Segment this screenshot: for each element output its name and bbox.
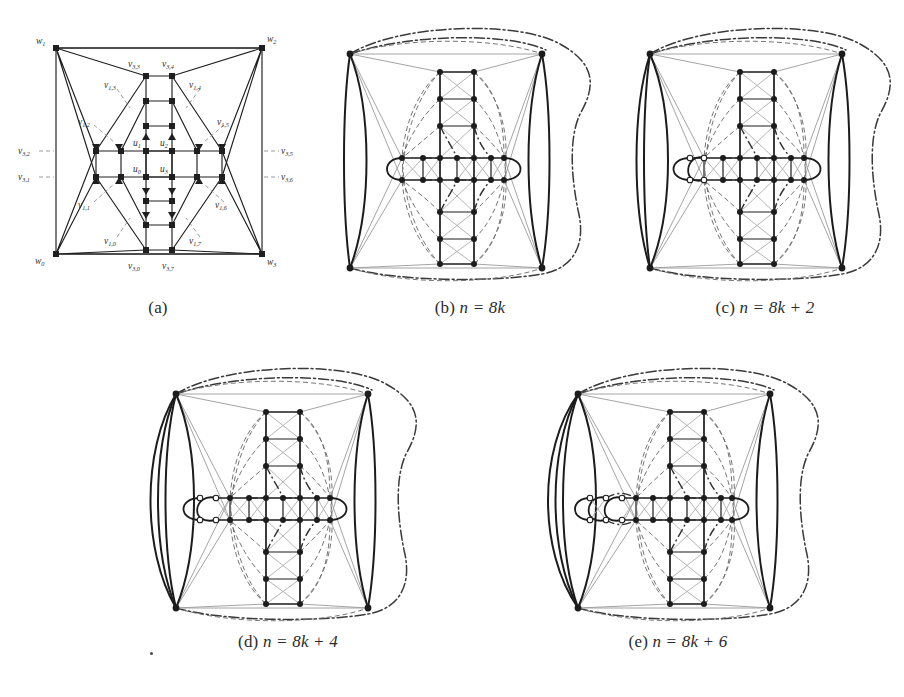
label-w2: w2: [267, 34, 276, 45]
label-v34: v3,4: [162, 59, 174, 70]
caption-c-prefix: (c): [716, 298, 735, 317]
caption-e-formula: n = 8k + 6: [652, 632, 727, 651]
panel-a: w1 w2 w0 w3 v3,3 v3,4 v3,0 v3,7 v3,2 v3,…: [34, 32, 284, 287]
label-u0: u0: [133, 164, 142, 175]
label-v11: v1,1: [78, 200, 90, 211]
caption-b: (b) n = 8k: [390, 298, 550, 318]
caption-d-prefix: (d): [238, 632, 258, 651]
label-v15: v1,5: [217, 117, 229, 128]
label-w3: w3: [267, 257, 276, 268]
caption-e: (e) n = 8k + 6: [578, 632, 778, 652]
label-v35: v3,5: [281, 146, 293, 157]
label-v32: v3,2: [18, 146, 30, 157]
label-v16: v1,6: [215, 200, 228, 211]
figure-root: w1 w2 w0 w3 v3,3 v3,4 v3,0 v3,7 v3,2 v3,…: [0, 0, 904, 697]
label-u3: u3: [160, 164, 168, 175]
label-v36: v3,6: [281, 172, 294, 183]
panel-e: [530, 372, 830, 627]
caption-c-formula: n = 8k + 2: [739, 298, 814, 317]
label-w1: w1: [36, 36, 45, 47]
panel-a-graph: w1 w2 w0 w3 v3,3 v3,4 v3,0 v3,7 v3,2 v3,…: [34, 32, 284, 287]
panel-b-graph: [328, 30, 608, 290]
label-w0: w0: [35, 256, 45, 267]
caption-c: (c) n = 8k + 2: [670, 298, 860, 318]
label-u2: u2: [160, 138, 168, 149]
label-v14: v1,4: [189, 80, 201, 91]
panel-c-graph: [620, 30, 900, 290]
panel-d-graph: [138, 372, 428, 627]
label-v17: v1,7: [189, 236, 202, 247]
caption-b-formula: n = 8k: [460, 298, 506, 317]
label-v13: v1,3: [104, 80, 116, 91]
stray-ink-dot: [150, 652, 153, 655]
panel-c: [620, 30, 900, 290]
panel-b: [328, 30, 608, 290]
label-v30: v3,0: [128, 261, 141, 272]
panel-e-hollow-nodes: [587, 495, 625, 523]
caption-d-formula: n = 8k + 4: [263, 632, 338, 651]
caption-e-prefix: (e): [629, 632, 648, 651]
label-v37: v3,7: [162, 261, 175, 272]
label-u1: u1: [133, 138, 141, 149]
panel-e-graph: [530, 372, 830, 627]
panel-d: [138, 372, 428, 627]
label-v31: v3,1: [18, 172, 30, 183]
caption-d: (d) n = 8k + 4: [188, 632, 388, 652]
panel-d-hollow-nodes: [197, 495, 219, 523]
label-v10: v1,0: [104, 236, 117, 247]
caption-a: (a): [113, 298, 203, 318]
caption-b-prefix: (b): [435, 298, 455, 317]
label-v33: v3,3: [128, 59, 140, 70]
